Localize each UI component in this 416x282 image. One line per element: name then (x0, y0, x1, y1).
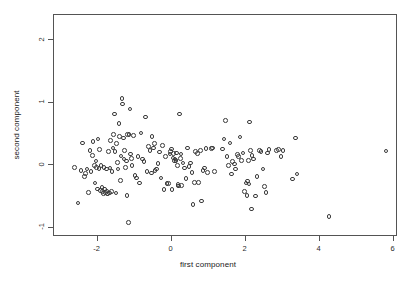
y-axis-tick (48, 227, 53, 228)
y-axis-tick (48, 39, 53, 40)
plot-frame (53, 14, 397, 236)
x-axis-tick-label: 2 (233, 244, 257, 253)
x-axis-tick-label: 0 (159, 244, 183, 253)
x-axis-tick-label: 6 (381, 244, 405, 253)
x-axis-title: first component (0, 260, 416, 269)
y-axis-tick-label: 2 (37, 30, 46, 48)
y-axis-tick-label: -1 (37, 218, 46, 236)
scatter-plot-figure: -20246210-1 first component second compo… (0, 0, 416, 282)
x-axis-tick (97, 236, 98, 241)
x-axis-tick (393, 236, 394, 241)
y-axis-tick (48, 102, 53, 103)
y-axis-tick-label: 0 (37, 155, 46, 173)
x-axis-tick (245, 236, 246, 241)
y-axis-tick-label: 1 (37, 93, 46, 111)
x-axis-tick-label: 4 (307, 244, 331, 253)
y-axis-tick (48, 164, 53, 165)
y-axis-title: second component (12, 90, 21, 159)
x-axis-tick (171, 236, 172, 241)
x-axis-tick (319, 236, 320, 241)
x-axis-tick-label: -2 (85, 244, 109, 253)
